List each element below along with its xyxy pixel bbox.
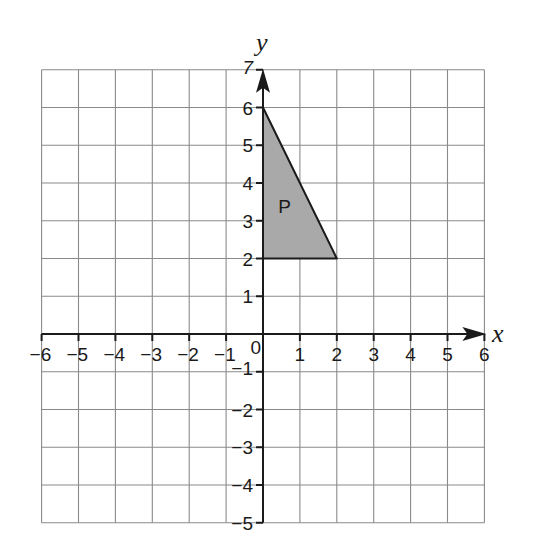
- x-tick-label: −5: [67, 344, 89, 365]
- x-tick-label: −4: [103, 344, 125, 365]
- x-tick-label: 5: [442, 344, 453, 365]
- x-tick-label: 3: [368, 344, 379, 365]
- y-tick-label: −2: [231, 400, 253, 421]
- y-tick-label: 3: [242, 211, 253, 232]
- y-tick-label: 7: [242, 57, 254, 78]
- x-tick-label: 1: [295, 344, 306, 365]
- y-tick-label: 1: [242, 286, 253, 307]
- y-tick-label: −3: [231, 437, 253, 458]
- y-axis-title: y: [253, 28, 268, 57]
- y-tick-label: −1: [231, 358, 253, 379]
- x-tick-label: −3: [140, 344, 162, 365]
- x-tick-label: −2: [177, 344, 199, 365]
- y-tick-label: −4: [231, 475, 253, 496]
- x-tick-label: 2: [332, 344, 343, 365]
- x-tick-label: 6: [479, 344, 490, 365]
- y-tick-label: 2: [242, 249, 253, 270]
- coordinate-grid: P −6−5−4−3−2−1123456−5−4−3−2−112345670 x…: [0, 0, 533, 559]
- x-axis-title: x: [491, 319, 504, 348]
- shape-label: P: [278, 196, 291, 217]
- y-tick-label: −5: [231, 513, 253, 534]
- y-tick-label: 5: [242, 135, 253, 156]
- y-tick-label: 6: [242, 98, 253, 119]
- x-tick-label: −6: [30, 344, 52, 365]
- origin-label: 0: [250, 337, 261, 358]
- y-tick-label: 4: [242, 173, 253, 194]
- x-tick-label: 4: [405, 344, 416, 365]
